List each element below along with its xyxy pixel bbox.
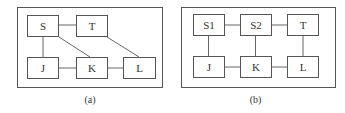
node-label: K [252,61,260,73]
node-T: T [77,16,108,37]
node-S2: S2 [241,15,272,36]
node-S: S [28,16,59,37]
node-label: S1 [203,19,215,31]
edge-S-K [59,37,90,57]
edge-T-L [107,37,139,57]
diagram-canvas: S T J K L (a) S1 [0,0,345,113]
node-K: K [241,57,272,78]
node-label: J [41,62,46,74]
panel-b-caption: (b) [250,94,262,106]
node-label: T [89,20,96,32]
node-label: L [300,61,307,73]
node-J: J [194,57,225,78]
node-T: T [288,15,319,36]
node-label: S2 [250,19,262,31]
node-K: K [77,58,108,79]
panel-b: S1 S2 T J K L (b) [182,8,336,107]
node-label: L [136,62,143,74]
node-L: L [288,57,319,78]
panel-a: S T J K L (a) [18,8,163,107]
node-label: S [40,20,46,32]
panel-a-caption: (a) [84,94,95,106]
node-label: K [88,62,96,74]
node-L: L [124,58,156,79]
node-label: T [300,19,307,31]
node-J: J [28,58,59,79]
node-label: J [207,61,212,73]
node-S1: S1 [194,15,225,36]
